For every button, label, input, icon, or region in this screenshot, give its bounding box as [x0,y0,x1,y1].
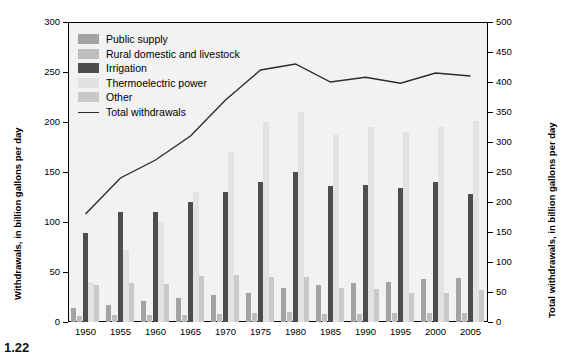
legend-color-swatch-public_supply [78,34,99,44]
legend-label: Other [106,91,132,103]
legend-item-rural: Rural domestic and livestock [78,47,240,62]
legend-label: Rural domestic and livestock [106,48,240,60]
legend-item-irrigation: Irrigation [78,61,240,76]
figure-container: Withdrawals, in billion gallons per day … [0,0,566,359]
legend-item-total: Total withdrawals [78,105,240,120]
legend-color-swatch-irrigation [78,63,99,73]
legend-item-thermoelectric: Thermoelectric power [78,76,240,91]
figure-caption: 1.22 [4,340,29,355]
legend-color-swatch-thermoelectric [78,78,99,88]
chart-legend: Public supplyRural domestic and livestoc… [78,32,240,119]
legend-label: Thermoelectric power [106,77,207,89]
legend-color-swatch-other [78,92,99,102]
legend-label: Irrigation [106,62,147,74]
legend-color-swatch-rural [78,49,99,59]
legend-label: Total withdrawals [106,106,186,118]
legend-item-other: Other [78,90,240,105]
legend-item-public_supply: Public supply [78,32,240,47]
legend-line-swatch-total [78,107,99,117]
legend-label: Public supply [106,33,168,45]
